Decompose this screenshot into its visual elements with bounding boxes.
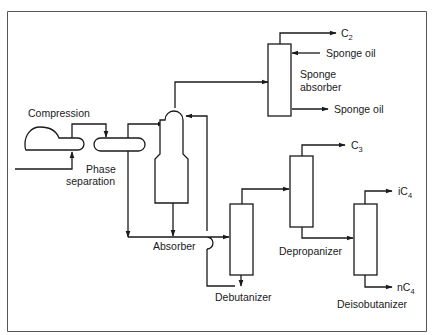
debutanizer-overhead-stream	[242, 189, 289, 204]
phase-separation-label-1: Phase	[86, 163, 116, 175]
ic4-stream	[365, 191, 392, 204]
diagram-frame	[8, 12, 427, 332]
depropanizer-bottoms-stream	[302, 227, 353, 238]
c3-stream	[302, 145, 345, 156]
debutanizer-recycle-stream	[186, 116, 235, 286]
nc4-label: nC4	[397, 281, 415, 296]
c2-stream	[280, 33, 336, 44]
ic4-label: iC4	[398, 185, 412, 200]
absorber-shape	[155, 111, 188, 203]
sponge-absorber-shape	[268, 44, 291, 116]
absorber-overhead-stream	[175, 82, 268, 108]
feed-stream	[15, 152, 72, 169]
sponge-oil-out-label: Sponge oil	[334, 103, 384, 115]
compression-label: Compression	[28, 107, 90, 119]
debutanizer-shape	[230, 204, 253, 275]
process-flow-diagram: Compression Phase separation Absorber Sp…	[0, 0, 432, 335]
compressor-to-separator-stream	[72, 124, 106, 138]
depropanizer-label: Depropanizer	[279, 245, 343, 257]
sponge-absorber-label-1: Sponge	[300, 68, 336, 80]
c2-label: C2	[341, 27, 353, 42]
phase-separation-label-2: separation	[66, 175, 115, 187]
phase-separator-shape	[94, 138, 145, 151]
sponge-absorber-label-2: absorber	[300, 81, 342, 93]
separator-vapor-stream	[128, 124, 164, 138]
sponge-oil-in-label: Sponge oil	[326, 47, 376, 59]
debutanizer-label: Debutanizer	[215, 291, 272, 303]
compressor-shape	[25, 127, 84, 150]
deisobutanizer-label: Deisobutanizer	[337, 298, 408, 310]
absorber-label: Absorber	[153, 240, 196, 252]
deisobutanizer-shape	[354, 204, 377, 275]
nc4-stream	[365, 275, 392, 287]
c3-label: C3	[351, 139, 363, 154]
depropanizer-shape	[290, 156, 313, 227]
